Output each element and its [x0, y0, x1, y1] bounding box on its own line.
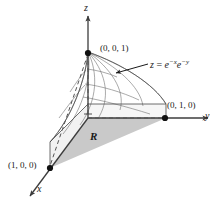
- label-z-axis: z: [84, 3, 88, 13]
- label-point-apex: (0, 0, 1): [100, 44, 129, 53]
- label-y-axis: y: [205, 111, 209, 121]
- label-surface-equation: z = e−xe−y: [150, 59, 189, 70]
- equation-exponent-2: −y: [181, 58, 189, 66]
- label-x-axis: x: [37, 184, 41, 194]
- label-region-R: R: [90, 131, 97, 142]
- x-intercept-dot: [47, 165, 53, 171]
- y-intercept-dot: [162, 115, 168, 121]
- label-point-x-intercept: (1, 0, 0): [8, 161, 37, 170]
- equation-exponent-1: −x: [169, 58, 177, 66]
- label-point-y-intercept: (0, 1, 0): [167, 101, 196, 110]
- apex-dot: [85, 50, 91, 56]
- equation-leader-line: [116, 64, 148, 73]
- figure-container: (0, 0, 1) (0, 1, 0) (1, 0, 0) z y x R z …: [0, 0, 218, 204]
